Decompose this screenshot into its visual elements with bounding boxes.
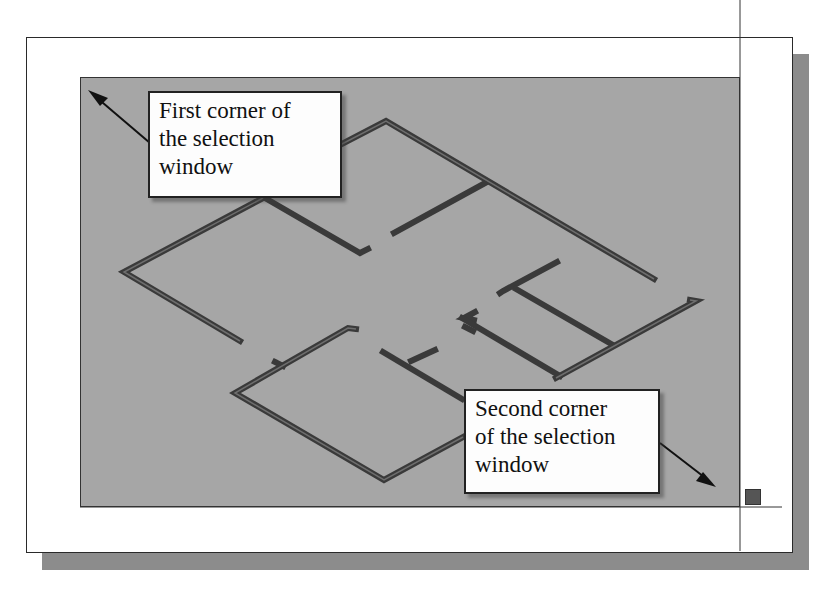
callout-line: of the selection — [475, 423, 649, 451]
callout-line: the selection — [159, 125, 331, 153]
isometric-floor-plan — [0, 0, 840, 592]
second-corner-callout: Second corner of the selection window — [464, 389, 660, 494]
square-grip-icon[interactable] — [745, 489, 761, 505]
crosshair-icon — [80, 0, 782, 551]
callout-line: Second corner — [475, 395, 649, 423]
callout-line: window — [475, 451, 649, 479]
arrow-up-left-icon — [88, 90, 150, 143]
callout-line: window — [159, 153, 331, 181]
callout-line: First corner of — [159, 97, 331, 125]
arrow-down-right-icon — [660, 443, 716, 487]
first-corner-callout: First corner of the selection window — [148, 91, 342, 198]
